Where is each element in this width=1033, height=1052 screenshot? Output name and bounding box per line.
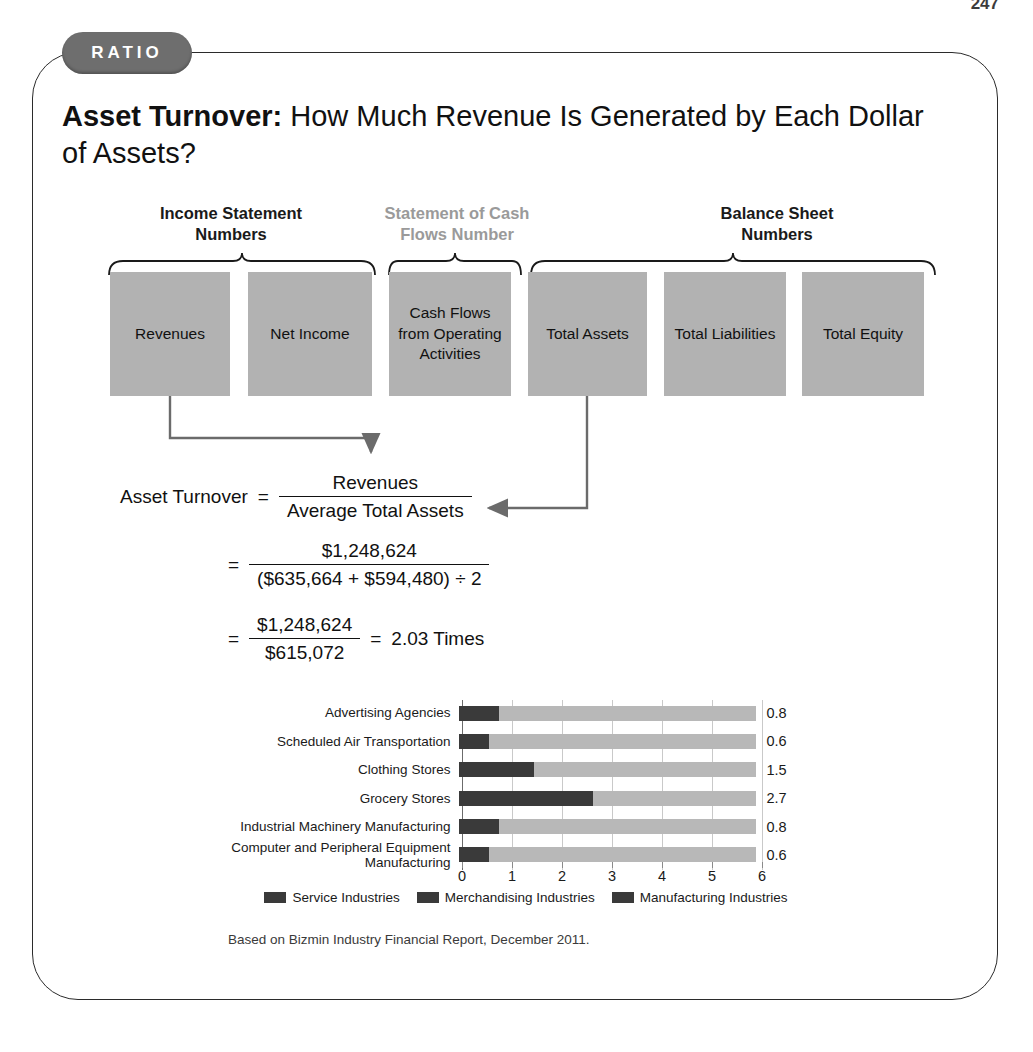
chart-value-label: 0.6 bbox=[756, 847, 810, 863]
chart-category-label: Grocery Stores bbox=[190, 791, 459, 806]
group-header-line1: Statement of Cash bbox=[368, 203, 546, 224]
chart-source-note: Based on Bizmin Industry Financial Repor… bbox=[228, 932, 589, 947]
formula-denominator: ($635,664 + $594,480) ÷ 2 bbox=[249, 564, 489, 590]
chart-value-label: 0.6 bbox=[756, 733, 810, 749]
box-label: Cash Flows from Operating Activities bbox=[393, 303, 507, 364]
box-cash-flows-operating: Cash Flows from Operating Activities bbox=[389, 272, 511, 396]
legend-item: Service Industries bbox=[264, 890, 399, 905]
box-net-income: Net Income bbox=[248, 272, 372, 396]
page-number: 247 bbox=[971, 0, 999, 14]
chart-category-label: Scheduled Air Transportation bbox=[190, 734, 459, 749]
chart-bar-fill bbox=[459, 847, 489, 862]
ratio-badge-label: RATIO bbox=[91, 43, 163, 63]
chart-value-label: 1.5 bbox=[756, 762, 810, 778]
chart-bar-track bbox=[459, 706, 756, 721]
chart-bar-track bbox=[459, 762, 756, 777]
chart-row: Advertising Agencies0.8 bbox=[190, 700, 810, 726]
chart-tick-label: 4 bbox=[658, 868, 666, 884]
chart-row: Clothing Stores1.5 bbox=[190, 757, 810, 783]
formula-numerator: $1,248,624 bbox=[249, 614, 360, 638]
chart-bar-track bbox=[459, 791, 756, 806]
formula-definition: Asset Turnover = Revenues Average Total … bbox=[120, 472, 472, 522]
chart-row: Computer and Peripheral Equipment Manufa… bbox=[190, 842, 810, 868]
legend-swatch bbox=[612, 892, 634, 903]
group-header-line2: Numbers bbox=[612, 224, 942, 245]
group-header-line1: Income Statement bbox=[112, 203, 350, 224]
box-label: Total Liabilities bbox=[675, 324, 776, 344]
group-header-income-statement: Income Statement Numbers bbox=[112, 203, 350, 245]
chart-row: Scheduled Air Transportation0.6 bbox=[190, 728, 810, 754]
legend-item: Merchandising Industries bbox=[417, 890, 595, 905]
formula-numerator: $1,248,624 bbox=[249, 540, 489, 564]
legend-label: Service Industries bbox=[292, 890, 399, 905]
formula-denominator: $615,072 bbox=[249, 638, 360, 664]
group-header-balance-sheet: Balance Sheet Numbers bbox=[612, 203, 942, 245]
chart-value-label: 0.8 bbox=[756, 705, 810, 721]
box-label: Total Assets bbox=[546, 324, 629, 344]
formula-equals: = bbox=[228, 554, 239, 576]
formula-equals: = bbox=[228, 628, 239, 650]
chart-bar-track bbox=[459, 847, 756, 862]
chart-bar-track bbox=[459, 819, 756, 834]
chart-bar-fill bbox=[459, 734, 489, 749]
ratio-badge: RATIO bbox=[62, 32, 192, 74]
legend-label: Manufacturing Industries bbox=[640, 890, 788, 905]
group-header-line1: Balance Sheet bbox=[612, 203, 942, 224]
legend-swatch bbox=[264, 892, 286, 903]
box-revenues: Revenues bbox=[110, 272, 230, 396]
formula-equals: = bbox=[258, 486, 269, 508]
industry-bar-chart: Advertising Agencies0.8Scheduled Air Tra… bbox=[190, 700, 810, 875]
chart-tick-label: 0 bbox=[458, 868, 466, 884]
formula-numerator: Revenues bbox=[279, 472, 472, 496]
chart-category-label: Clothing Stores bbox=[190, 762, 459, 777]
group-header-cash-flows: Statement of Cash Flows Number bbox=[368, 203, 546, 245]
chart-tick-label: 5 bbox=[708, 868, 716, 884]
box-label: Total Equity bbox=[823, 324, 903, 344]
chart-tick-label: 6 bbox=[758, 868, 766, 884]
legend-swatch bbox=[417, 892, 439, 903]
box-total-equity: Total Equity bbox=[802, 272, 924, 396]
legend-item: Manufacturing Industries bbox=[612, 890, 788, 905]
legend-label: Merchandising Industries bbox=[445, 890, 595, 905]
chart-bar-fill bbox=[459, 819, 499, 834]
formula-denominator: Average Total Assets bbox=[279, 496, 472, 522]
box-label: Net Income bbox=[270, 324, 349, 344]
formula-step-2: = $1,248,624 ($635,664 + $594,480) ÷ 2 bbox=[228, 540, 489, 590]
chart-tick-label: 1 bbox=[508, 868, 516, 884]
chart-bar-track bbox=[459, 734, 756, 749]
chart-bar-fill bbox=[459, 791, 593, 806]
chart-bar-fill bbox=[459, 706, 499, 721]
formula-name: Asset Turnover bbox=[120, 486, 248, 508]
chart-row: Industrial Machinery Manufacturing0.8 bbox=[190, 814, 810, 840]
chart-category-label: Industrial Machinery Manufacturing bbox=[190, 819, 459, 834]
formula-equals: = bbox=[370, 628, 381, 650]
chart-x-axis: 0123456 bbox=[462, 868, 762, 888]
chart-tick-label: 3 bbox=[608, 868, 616, 884]
formula-fraction: Revenues Average Total Assets bbox=[279, 472, 472, 522]
page-title: Asset Turnover: How Much Revenue Is Gene… bbox=[62, 98, 952, 172]
chart-category-label: Advertising Agencies bbox=[190, 705, 459, 720]
chart-value-label: 2.7 bbox=[756, 790, 810, 806]
chart-row: Grocery Stores2.7 bbox=[190, 785, 810, 811]
formula-step-3: = $1,248,624 $615,072 = 2.03 Times bbox=[228, 614, 484, 664]
formula-fraction: $1,248,624 ($635,664 + $594,480) ÷ 2 bbox=[249, 540, 489, 590]
chart-tick-label: 2 bbox=[558, 868, 566, 884]
box-label: Revenues bbox=[135, 324, 205, 344]
page-title-lead: Asset Turnover: bbox=[62, 100, 282, 132]
box-total-liabilities: Total Liabilities bbox=[664, 272, 786, 396]
chart-legend: Service IndustriesMerchandising Industri… bbox=[236, 890, 816, 905]
formula-result: 2.03 Times bbox=[391, 628, 484, 650]
box-total-assets: Total Assets bbox=[528, 272, 647, 396]
chart-bar-fill bbox=[459, 762, 533, 777]
group-header-line2: Numbers bbox=[112, 224, 350, 245]
chart-value-label: 0.8 bbox=[756, 819, 810, 835]
formula-fraction: $1,248,624 $615,072 bbox=[249, 614, 360, 664]
chart-category-label: Computer and Peripheral Equipment Manufa… bbox=[190, 840, 459, 870]
group-header-line2: Flows Number bbox=[368, 224, 546, 245]
